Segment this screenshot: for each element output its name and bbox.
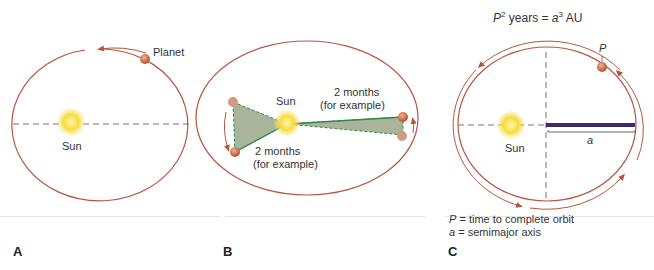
sun-label: Sun (505, 142, 525, 154)
sun-label: Sun (276, 95, 296, 107)
sun-icon (274, 110, 300, 136)
planet-label: P (599, 42, 606, 54)
panel-c-orbit (453, 41, 643, 209)
planet-label: Planet (153, 46, 184, 58)
area-label-right-2: (for example) (320, 99, 385, 111)
panel-a-orbit (12, 48, 189, 201)
area-label-left-1: 2 months (255, 145, 300, 157)
panel-label-b: B (223, 244, 232, 259)
formula: P2 years = a3 AU (493, 9, 582, 24)
panel-label-a: A (13, 244, 22, 259)
kepler-laws-diagram (0, 0, 654, 270)
panel-label-c: C (448, 244, 457, 259)
planet-icon (140, 54, 150, 64)
area-label-right-1: 2 months (334, 86, 379, 98)
legend-line-1: P = time to complete orbit (449, 213, 574, 225)
sun-label: Sun (62, 140, 82, 152)
planet-icon (597, 62, 607, 72)
panel-b-orbit (196, 41, 418, 195)
legend-line-2: a = semimajor axis (449, 226, 541, 238)
sun-icon (57, 108, 85, 136)
semimajor-axis-bar (546, 123, 635, 127)
sun-icon (497, 111, 525, 139)
axis-label: a (587, 134, 593, 146)
area-label-left-2: (for example) (253, 158, 318, 170)
